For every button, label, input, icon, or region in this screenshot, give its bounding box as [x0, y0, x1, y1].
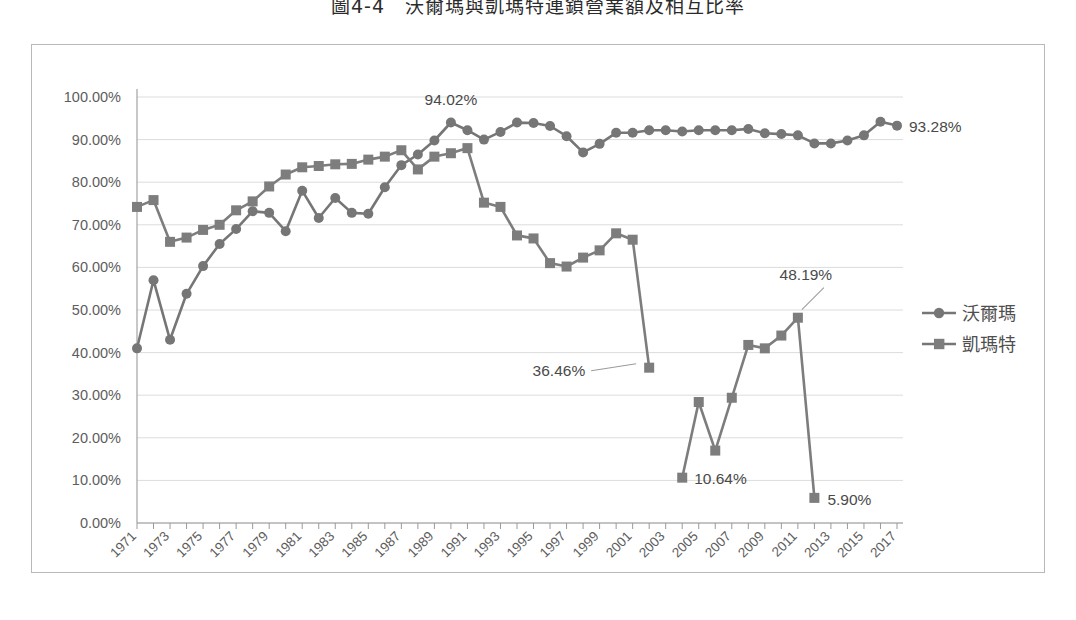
x-axis-tick-label: 2007: [702, 529, 734, 561]
data-point-marker: [694, 397, 704, 407]
data-point-marker: [628, 235, 638, 245]
x-axis-tick-label: 2011: [769, 529, 800, 560]
y-axis-tick-label: 20.00%: [72, 430, 121, 446]
data-point-marker: [330, 193, 340, 203]
data-point-marker: [429, 152, 439, 162]
leader-line-36: [591, 364, 636, 371]
data-point-marker: [562, 131, 572, 141]
data-point-marker: [743, 124, 753, 134]
data-point-marker: [727, 393, 737, 403]
data-point-marker: [149, 195, 159, 205]
x-axis-tick-label: 1979: [239, 529, 271, 561]
data-point-marker: [578, 147, 588, 157]
data-point-marker: [132, 202, 142, 212]
data-point-marker: [165, 335, 175, 345]
chart-frame: 0.00%10.00%20.00%30.00%40.00%50.00%60.00…: [31, 44, 1045, 573]
data-point-marker: [809, 493, 819, 503]
data-point-marker: [429, 135, 439, 145]
x-axis-tick-label: 1993: [471, 529, 503, 561]
data-point-marker: [595, 245, 605, 255]
data-point-marker: [512, 118, 522, 128]
data-point-marker: [826, 138, 836, 148]
data-point-marker: [677, 473, 687, 483]
legend-label-沃爾瑪[interactable]: 沃爾瑪: [962, 303, 1016, 324]
data-point-marker: [760, 128, 770, 138]
data-point-marker: [760, 343, 770, 353]
data-point-marker: [363, 209, 373, 219]
data-point-marker: [297, 186, 307, 196]
data-point-marker: [677, 127, 687, 137]
x-axis-tick-label: 1985: [339, 529, 371, 561]
data-point-marker: [694, 125, 704, 135]
data-point-marker: [281, 226, 291, 236]
y-axis-tick-label: 30.00%: [72, 387, 121, 403]
data-point-marker: [479, 198, 489, 208]
data-point-marker: [495, 202, 505, 212]
y-axis-tick-label: 100.00%: [64, 89, 121, 105]
data-point-marker: [446, 117, 456, 127]
annotation-walmart-end: 93.28%: [909, 118, 962, 135]
data-point-marker: [396, 145, 406, 155]
x-axis-tick-label: 2001: [603, 529, 635, 561]
data-point-marker: [842, 135, 852, 145]
legend-circle-marker-icon: [934, 308, 944, 318]
data-point-marker: [264, 181, 274, 191]
data-point-marker: [776, 129, 786, 139]
x-axis-tick-label: 1973: [140, 529, 172, 561]
series-line-凱瑪特: [137, 148, 649, 368]
data-point-marker: [413, 150, 423, 160]
y-axis-tick-label: 60.00%: [72, 259, 121, 275]
annotation-walmart-peak: 94.02%: [425, 91, 478, 108]
data-point-marker: [215, 239, 225, 249]
x-axis-tick-label: 1991: [438, 529, 470, 561]
data-point-marker: [149, 275, 159, 285]
data-point-marker: [495, 127, 505, 137]
data-point-marker: [859, 130, 869, 140]
y-axis-tick-label: 90.00%: [72, 132, 121, 148]
leader-line-48: [802, 288, 824, 310]
annotation-kmart-2012: 5.90%: [827, 491, 871, 508]
data-point-marker: [793, 313, 803, 323]
x-axis-tick-label: 1981: [272, 529, 304, 561]
data-point-marker: [710, 125, 720, 135]
x-axis-tick-label: 2013: [801, 529, 833, 561]
data-point-marker: [198, 225, 208, 235]
y-axis-tick-label: 0.00%: [80, 515, 121, 531]
y-axis-tick-label: 50.00%: [72, 302, 121, 318]
data-point-marker: [248, 196, 258, 206]
data-point-marker: [892, 121, 902, 131]
data-point-marker: [479, 135, 489, 145]
data-point-marker: [446, 148, 456, 158]
data-point-marker: [462, 125, 472, 135]
data-point-marker: [132, 343, 142, 353]
data-point-marker: [512, 230, 522, 240]
data-point-marker: [215, 220, 225, 230]
x-axis-tick-label: 1989: [405, 529, 437, 561]
data-point-marker: [644, 125, 654, 135]
x-axis-tick-label: 1977: [206, 529, 238, 561]
data-point-marker: [413, 164, 423, 174]
x-axis-tick-label: 1987: [372, 529, 404, 561]
data-point-marker: [182, 289, 192, 299]
data-point-marker: [182, 233, 192, 243]
annotation-kmart-2004: 10.64%: [694, 470, 747, 487]
legend-label-凱瑪特[interactable]: 凱瑪特: [962, 334, 1016, 355]
data-point-marker: [380, 182, 390, 192]
line-chart-plot: 0.00%10.00%20.00%30.00%40.00%50.00%60.00…: [32, 45, 1044, 572]
x-axis-tick-label: 2003: [636, 529, 668, 561]
data-point-marker: [529, 118, 539, 128]
page-title: 圖4-4 沃爾瑪與凱瑪特連鎖營業額及相互比率: [0, 0, 1076, 18]
data-point-marker: [793, 130, 803, 140]
data-point-marker: [776, 331, 786, 341]
x-axis-tick-label: 2009: [735, 529, 767, 561]
data-point-marker: [595, 139, 605, 149]
y-axis-tick-label: 40.00%: [72, 345, 121, 361]
x-axis-tick-label: 2005: [669, 529, 701, 561]
x-axis-tick-label: 2015: [834, 529, 866, 561]
y-axis-tick-label: 10.00%: [72, 472, 121, 488]
data-point-marker: [578, 253, 588, 263]
data-point-marker: [743, 340, 753, 350]
data-point-marker: [347, 159, 357, 169]
x-axis-tick-label: 1975: [173, 529, 205, 561]
data-point-marker: [231, 224, 241, 234]
